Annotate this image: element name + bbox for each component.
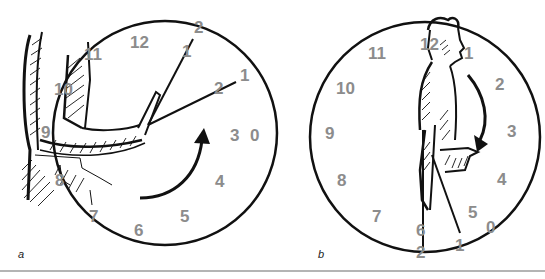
inner-marker-2-a: 2 (214, 79, 223, 98)
outer-marker-0-a: 0 (250, 126, 259, 145)
panel-label-a: a (18, 248, 24, 260)
clock-number-8-b: 8 (337, 171, 346, 190)
clock-number-9-a: 9 (41, 123, 50, 142)
clock-number-5-b: 5 (468, 203, 477, 222)
clock-number-5-a: 5 (180, 207, 189, 226)
clock-number-12-b: 12 (420, 35, 439, 54)
clock-number-7-a: 7 (89, 207, 98, 226)
outer-marker-1-a: 1 (240, 66, 249, 85)
outer-marker-1-b: 1 (455, 236, 464, 255)
clock-number-11-b: 11 (368, 44, 386, 63)
panel-b: 12 1 2 3 4 5 6 7 8 9 10 11 2 1 0 b (310, 18, 540, 262)
clock-number-7-b: 7 (372, 207, 381, 226)
outer-marker-0-b: 0 (486, 218, 495, 237)
clock-number-3-a: 3 (230, 126, 239, 145)
clock-number-10-b: 10 (336, 79, 355, 98)
clock-number-4-a: 4 (215, 172, 225, 191)
rotation-arrow-b (468, 75, 485, 140)
clock-number-3-b: 3 (507, 122, 516, 141)
figure-canvas: 12 11 10 9 8 7 6 5 4 3 1 2 2 1 0 a (0, 0, 545, 279)
arrowhead-icon-a (194, 128, 210, 144)
bottom-divider (0, 270, 545, 272)
inner-marker-1-a: 1 (182, 42, 191, 61)
clock-number-9-b: 9 (325, 124, 334, 143)
panel-label-b: b (318, 248, 324, 260)
rotation-arrow-a (140, 140, 202, 198)
outer-marker-2-a: 2 (194, 18, 203, 37)
outer-marker-2-b: 2 (416, 243, 425, 262)
clock-number-10-a: 10 (54, 80, 73, 99)
clock-number-12-a: 12 (130, 33, 149, 52)
clock-number-6-b: 6 (416, 221, 425, 240)
panel-a: 12 11 10 9 8 7 6 5 4 3 1 2 2 1 0 a (18, 18, 277, 260)
clock-number-4-b: 4 (497, 170, 507, 189)
body-hatching-a (22, 32, 54, 206)
clock-number-2-b: 2 (495, 75, 504, 94)
clock-number-6-a: 6 (134, 221, 143, 240)
clock-number-1-b: 1 (464, 44, 473, 63)
clock-number-8-a: 8 (55, 171, 64, 190)
clock-number-11-a: 11 (84, 45, 102, 64)
pointer-line-1-b (432, 155, 460, 233)
